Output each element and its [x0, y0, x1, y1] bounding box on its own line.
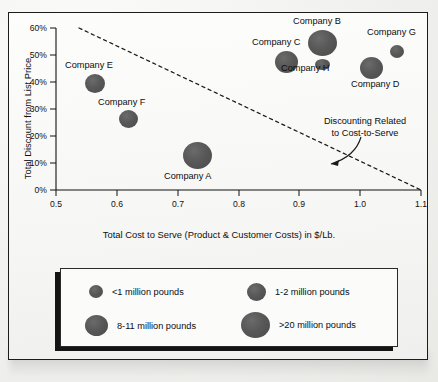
x-tick-label-0-6: 0.6 — [102, 199, 132, 209]
legend-label-under-1m: <1 million pounds — [112, 287, 184, 297]
bubble-company-f[interactable] — [119, 110, 138, 128]
x-tick-label-0-8: 0.8 — [224, 199, 254, 209]
legend-item-under-1m[interactable]: <1 million pounds — [89, 285, 184, 298]
legend-dot-1-2m — [247, 283, 266, 301]
bubble-company-b[interactable] — [308, 30, 337, 56]
bubble-company-d[interactable] — [360, 57, 383, 79]
y-tick-label-60: 60% — [13, 23, 47, 33]
legend-label-8-11m: 8-11 million pounds — [117, 321, 196, 331]
bubble-label-company-g: Company G — [367, 27, 416, 37]
legend-dot-under-1m — [89, 285, 103, 298]
figure-frame: 60% 50% 40% 30% 20% 10% 0% 0.5 0.6 0.7 0… — [8, 12, 428, 360]
legend-label-1-2m: 1-2 million pounds — [275, 287, 350, 297]
annotation-arrow-head — [331, 160, 339, 166]
x-tick-label-0-9: 0.9 — [284, 199, 314, 209]
y-axis-title: Total Discount from List Price — [22, 39, 33, 199]
bubble-label-company-h: Company H — [281, 63, 330, 73]
bubble-company-a[interactable] — [183, 142, 212, 169]
x-axis-title: Total Cost to Serve (Product & Customer … — [9, 229, 429, 240]
legend-dot-8-11m — [85, 315, 108, 336]
x-tick-label-1-1: 1.1 — [406, 199, 436, 209]
annotation-line-1: Discounting Related — [309, 116, 421, 128]
bubble-company-g[interactable] — [390, 45, 404, 58]
bubble-label-company-b: Company B — [293, 16, 341, 26]
trendline-annotation: Discounting Related to Cost-to-Serve — [309, 116, 421, 139]
bubble-label-company-f: Company F — [98, 97, 146, 107]
bubble-label-company-e: Company E — [65, 60, 113, 70]
bubble-label-company-d: Company D — [351, 79, 400, 89]
x-tick-label-0-5: 0.5 — [41, 199, 71, 209]
legend-item-1-2m[interactable]: 1-2 million pounds — [247, 283, 350, 301]
x-tick-label-1-0: 1.0 — [345, 199, 375, 209]
figure-root: 60% 50% 40% 30% 20% 10% 0% 0.5 0.6 0.7 0… — [0, 0, 438, 382]
bubble-chart: 60% 50% 40% 30% 20% 10% 0% 0.5 0.6 0.7 0… — [9, 13, 429, 248]
legend-box: <1 million pounds 1-2 million pounds 8-1… — [60, 268, 398, 347]
trendline — [79, 28, 421, 190]
legend-item-8-11m[interactable]: 8-11 million pounds — [85, 315, 196, 336]
legend-dot-over-20m — [241, 312, 270, 338]
bubble-company-e[interactable] — [85, 74, 105, 93]
legend-item-over-20m[interactable]: >20 million pounds — [241, 312, 356, 338]
bubble-label-company-a: Company A — [164, 171, 212, 181]
bubble-label-company-c: Company C — [252, 37, 301, 47]
legend-label-over-20m: >20 million pounds — [279, 320, 356, 330]
annotation-line-2: to Cost-to-Serve — [309, 128, 421, 140]
x-tick-label-0-7: 0.7 — [163, 199, 193, 209]
